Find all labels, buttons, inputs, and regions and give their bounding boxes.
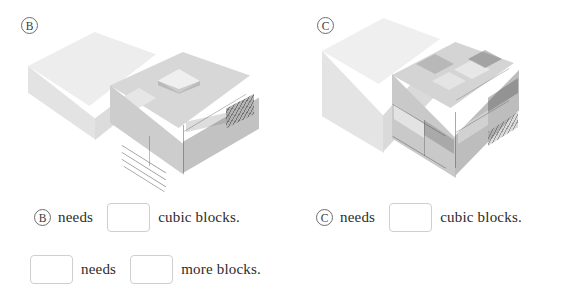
cluster-b-groove-3 <box>121 159 166 187</box>
figure-c-illustration <box>282 0 564 196</box>
row-b-answer-input[interactable] <box>107 203 150 232</box>
answer-row-comparison: needs more blocks. <box>22 255 267 284</box>
cluster-b-left-vertical-seam <box>149 136 150 166</box>
figure-panel-c: C <box>282 0 564 196</box>
answer-row-c: C needs cubic blocks. <box>316 203 528 232</box>
comparison-verb: needs <box>81 261 116 278</box>
cluster-b-front-corner-edge <box>183 125 184 173</box>
cluster-c-left-vertical-seam <box>424 120 425 156</box>
answer-row-b: B needs cubic blocks. <box>34 203 246 232</box>
cluster-c-front-corner-edge <box>455 112 456 168</box>
comparison-amount-input[interactable] <box>130 255 173 284</box>
row-badge-b: B <box>34 209 51 226</box>
figure-panel-b: B <box>0 0 282 196</box>
row-badge-c: C <box>316 209 333 226</box>
row-c-verb: needs <box>340 209 375 226</box>
cluster-b-groove-4 <box>123 166 164 192</box>
row-b-suffix: cubic blocks. <box>158 209 240 226</box>
figure-b-illustration <box>0 0 282 196</box>
comparison-suffix: more blocks. <box>181 261 261 278</box>
row-c-suffix: cubic blocks. <box>440 209 522 226</box>
row-c-answer-input[interactable] <box>389 203 432 232</box>
comparison-subject-input[interactable] <box>30 255 73 284</box>
row-b-verb: needs <box>58 209 93 226</box>
